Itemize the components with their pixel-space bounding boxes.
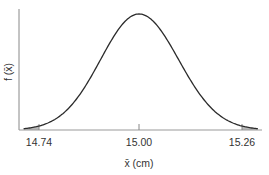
x-axis-ticks: 14.7415.0015.26 bbox=[26, 124, 255, 148]
y-axis-label: f (x̄) bbox=[2, 63, 14, 81]
normal-distribution-chart: 14.7415.0015.26 f (x̄) x̄ (cm) bbox=[0, 0, 269, 175]
x-tick-label: 14.74 bbox=[26, 136, 52, 148]
x-axis-label: x̄ (cm) bbox=[124, 157, 153, 169]
x-tick-label: 15.26 bbox=[229, 136, 255, 148]
density-curve bbox=[24, 14, 258, 129]
x-tick-label: 15.00 bbox=[126, 136, 152, 148]
